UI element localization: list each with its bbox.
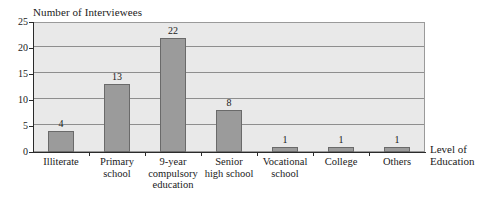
bar-value-label: 1: [265, 135, 305, 145]
bar: [160, 38, 186, 152]
x-axis-title-line-2: Education: [430, 155, 484, 167]
bar-value-label: 13: [97, 72, 137, 82]
bar: [216, 110, 242, 152]
category-label-line: Others: [365, 156, 429, 168]
category-label-line: school: [253, 168, 317, 180]
category-label-line: Senior: [197, 156, 261, 168]
category-label-line: school: [85, 168, 149, 180]
bar: [104, 84, 130, 152]
y-tick-mark: [29, 74, 33, 75]
chart-screenshot: Number of Interviewees 413228111 0510152…: [0, 0, 485, 200]
bar: [48, 131, 74, 152]
bar-value-label: 22: [153, 26, 193, 36]
bar-chart: Number of Interviewees 413228111 0510152…: [0, 0, 485, 200]
bar-value-label: 1: [377, 135, 417, 145]
category-label-line: Vocational: [253, 156, 317, 168]
category-label-line: education: [141, 179, 205, 191]
y-tick-mark: [29, 48, 33, 49]
y-axis-title: Number of Interviewees: [33, 6, 142, 18]
category-label: Others: [365, 156, 429, 168]
category-label-line: compulsory: [141, 168, 205, 180]
category-label-line: Illiterate: [29, 156, 93, 168]
y-tick-mark: [29, 126, 33, 127]
y-tick-label: 10: [4, 95, 28, 105]
bars-layer: 413228111: [33, 22, 425, 152]
category-label-line: high school: [197, 168, 261, 180]
y-tick-mark: [29, 152, 33, 153]
y-tick-label: 20: [4, 43, 28, 53]
y-tick-label: 5: [4, 121, 28, 131]
y-tick-label: 15: [4, 69, 28, 79]
category-label: Primaryschool: [85, 156, 149, 179]
category-label: Vocationalschool: [253, 156, 317, 179]
bar-value-label: 4: [41, 119, 81, 129]
category-label: Seniorhigh school: [197, 156, 261, 179]
y-tick-label: 25: [4, 17, 28, 27]
category-label: 9-yearcompulsoryeducation: [141, 156, 205, 191]
category-labels: IlliteratePrimaryschool9-yearcompulsorye…: [33, 156, 425, 200]
y-tick-label: 0: [4, 147, 28, 157]
category-label: Illiterate: [29, 156, 93, 168]
category-label: College: [309, 156, 373, 168]
x-axis-title: Level ofEducation: [430, 143, 484, 167]
category-label-line: Primary: [85, 156, 149, 168]
category-label-line: 9-year: [141, 156, 205, 168]
y-tick-mark: [29, 100, 33, 101]
x-axis-line: [33, 152, 426, 153]
category-label-line: College: [309, 156, 373, 168]
x-axis-title-line-1: Level of: [430, 143, 467, 155]
bar-value-label: 8: [209, 98, 249, 108]
y-axis-line: [33, 22, 34, 153]
y-tick-mark: [29, 22, 33, 23]
bar-value-label: 1: [321, 135, 361, 145]
